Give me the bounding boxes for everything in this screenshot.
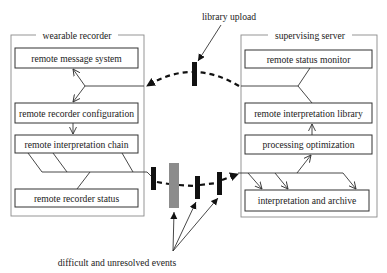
remote-recorder-configuration-label: remote recorder configuration <box>19 108 134 119</box>
events-pointer-2 <box>173 202 196 251</box>
remote-status-monitor-label: remote status monitor <box>267 54 351 65</box>
processing-optimization-label: processing optimization <box>263 139 355 150</box>
event-dash-1 <box>157 182 169 184</box>
interpretation-and-archive-label: interpretation and archive <box>258 195 357 206</box>
events-pointer-3 <box>173 198 218 251</box>
event-dashed-arrow <box>222 174 238 180</box>
event-packet-2 <box>195 176 200 199</box>
event-dash-2 <box>179 185 195 186</box>
unresolved-events-label: difficult and unresolved events <box>58 257 177 268</box>
library-upload-transfer: library upload <box>147 11 256 86</box>
monitor-junction-line <box>241 68 310 86</box>
bus-to-archive-arrow-1 <box>248 173 262 189</box>
remote-interpretation-library-box: remote interpretation library <box>245 103 372 123</box>
supervising-server-title: supervising server <box>275 30 346 41</box>
bus-to-archive-arrow-3 <box>343 173 356 189</box>
remote-interpretation-chain-label: remote interpretation chain <box>25 139 129 150</box>
unresolved-event-block <box>169 163 179 208</box>
event-packet-1 <box>151 167 156 190</box>
chain-output-bus <box>28 153 152 177</box>
bus-to-optimization-arrow <box>297 155 311 173</box>
chain-output-line-2 <box>53 153 67 172</box>
processing-optimization-box: processing optimization <box>245 135 372 154</box>
wearable-recorder-group: wearable recorder remote message system … <box>11 30 152 217</box>
diagram-svg: wearable recorder remote message system … <box>0 0 387 273</box>
library-junction-line <box>298 86 312 103</box>
event-packet-3 <box>217 172 222 195</box>
wearable-recorder-title: wearable recorder <box>43 30 113 41</box>
interpretation-and-archive-box: interpretation and archive <box>245 190 369 211</box>
library-upload-packet <box>192 62 197 86</box>
remote-status-monitor-box: remote status monitor <box>245 50 372 68</box>
remote-recorder-status-box: remote recorder status <box>15 189 138 207</box>
remote-recorder-configuration-box: remote recorder configuration <box>15 103 138 123</box>
remote-message-system-box: remote message system <box>15 48 138 68</box>
remote-interpretation-chain-box: remote interpretation chain <box>15 135 138 153</box>
chain-output-line-3 <box>122 153 133 172</box>
events-pointer-1 <box>173 212 174 251</box>
to-message-system-arrow <box>73 69 85 86</box>
bus-to-status-line <box>77 172 90 189</box>
remote-interpretation-library-label: remote interpretation library <box>254 108 363 119</box>
remote-message-system-label: remote message system <box>31 53 122 64</box>
diagram-canvas: wearable recorder remote message system … <box>0 0 387 273</box>
event-dash-3 <box>200 183 217 185</box>
library-upload-label: library upload <box>202 11 256 22</box>
bus-to-archive-arrow-2 <box>275 173 288 189</box>
library-upload-pointer <box>198 25 221 61</box>
remote-recorder-status-label: remote recorder status <box>34 193 120 204</box>
supervising-server-group: supervising server remote status monitor… <box>238 30 377 218</box>
to-configuration-arrow <box>73 86 85 102</box>
